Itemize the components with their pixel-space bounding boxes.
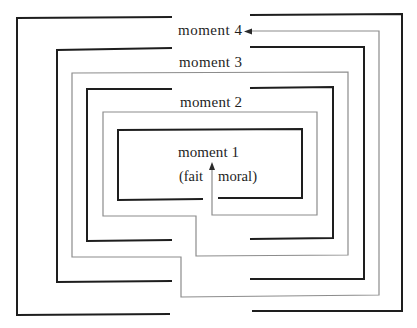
second-wall-left (57, 48, 172, 282)
annotation-left: (fait (179, 168, 204, 185)
arrow-left-icon (244, 29, 252, 35)
moment-3-label: moment 3 (179, 54, 242, 70)
third-wall (87, 87, 333, 241)
moment-1-label: moment 1 (178, 144, 239, 160)
moment-4-label: moment 4 (178, 22, 243, 38)
moment-2-label: moment 2 (180, 94, 242, 110)
outer-wall-left (17, 17, 172, 315)
third-wall-right (250, 87, 333, 239)
annotation-right: moral) (218, 168, 257, 185)
arrow-up-icon (209, 162, 215, 170)
second-wall-right (250, 47, 364, 279)
nested-moments-diagram: moment 4 moment 3 moment 2 moment 1 (fai… (0, 0, 417, 328)
inner-box (118, 129, 302, 200)
